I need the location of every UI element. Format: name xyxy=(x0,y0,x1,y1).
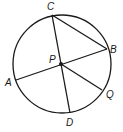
label-a: A xyxy=(4,77,12,88)
label-q: Q xyxy=(106,89,114,100)
label-b: B xyxy=(110,44,117,55)
segment-pq xyxy=(61,64,102,90)
circle-diagram: C B A P Q D xyxy=(0,0,123,132)
label-c: C xyxy=(47,1,55,12)
center-point xyxy=(59,62,63,66)
label-p: P xyxy=(49,54,56,65)
label-d: D xyxy=(66,117,73,128)
